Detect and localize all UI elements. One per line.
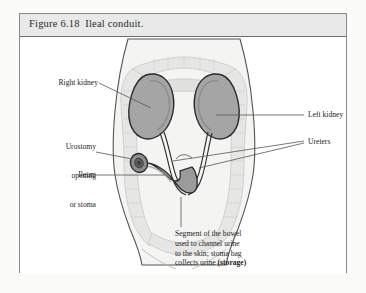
figure-caption: Segment of the bowel used to channel uri…	[175, 229, 315, 268]
figure-canvas: Right kidney Urostomy opening or stoma I…	[20, 37, 346, 273]
caption-line-4-text: collects urine	[175, 258, 218, 267]
caption-emphasis: (storage)	[218, 258, 247, 267]
figure-container: Figure 6.18 Ileal conduit.	[19, 13, 347, 273]
caption-line-3: to the skin; stoma bag	[175, 249, 315, 259]
label-urostomy-line1: Urostomy	[20, 142, 96, 152]
stoma-core	[137, 161, 140, 165]
label-ileum: Ileum	[20, 170, 96, 180]
label-left-kidney: Left kidney	[308, 110, 366, 120]
caption-line-1: Segment of the bowel	[175, 229, 315, 239]
caption-line-2: used to channel urine	[175, 239, 315, 249]
figure-title: Figure 6.18 Ileal conduit.	[29, 18, 143, 29]
label-ureters: Ureters	[308, 137, 366, 147]
caption-line-4: collects urine (storage)	[175, 258, 315, 268]
label-right-kidney: Right kidney	[20, 78, 98, 88]
label-urostomy-line3: or stoma	[20, 200, 96, 210]
figure-title-bar: Figure 6.18 Ileal conduit.	[20, 14, 346, 37]
